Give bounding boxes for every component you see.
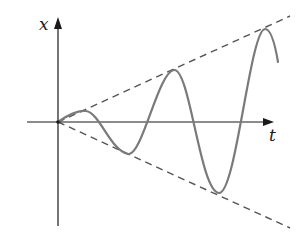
origin-point [56, 120, 60, 124]
resonance-diagram: x t [0, 0, 304, 240]
oscillation-curve [58, 29, 278, 193]
x-axis-arrow-icon [54, 17, 62, 29]
x-axis-label: x [39, 14, 49, 34]
lower-envelope-line [58, 122, 290, 228]
t-axis-label: t [269, 125, 276, 145]
